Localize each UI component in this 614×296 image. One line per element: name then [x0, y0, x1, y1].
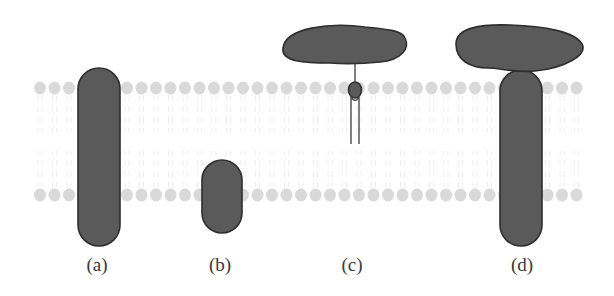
lipid-head — [368, 82, 380, 95]
lipid-head — [310, 189, 322, 202]
lipid-head — [440, 82, 452, 95]
lipid-head — [63, 82, 75, 95]
lipid-head — [281, 82, 293, 95]
diagram-canvas — [0, 0, 614, 296]
panel-label-c: (c) — [341, 254, 362, 276]
lipid-head — [397, 189, 409, 202]
lipid-head — [150, 189, 162, 202]
lipid-head — [121, 82, 133, 95]
lipid-head — [223, 82, 235, 95]
lipid-head — [194, 82, 206, 95]
lipid-head — [455, 189, 467, 202]
protein-b-embedded — [202, 160, 242, 233]
lipid-head — [49, 189, 61, 202]
lipid-head — [165, 189, 177, 202]
lipid-head — [484, 189, 496, 202]
lipid-head — [237, 82, 249, 95]
panel-label-a: (a) — [86, 254, 107, 276]
lipid-head — [295, 82, 307, 95]
lipid-head — [252, 189, 264, 202]
lipid-head — [179, 82, 191, 95]
lipid-head — [208, 82, 220, 95]
lipid-anchor-tails — [351, 95, 359, 144]
lipid-head — [63, 189, 75, 202]
lipid-head — [571, 82, 583, 95]
lipid-head — [324, 189, 336, 202]
lipid-head — [353, 189, 365, 202]
lipid-head — [556, 189, 568, 202]
lipid-head — [426, 189, 438, 202]
lipid-head — [295, 189, 307, 202]
lipid-head — [324, 82, 336, 95]
lipid-head — [542, 189, 554, 202]
lipid-head — [455, 82, 467, 95]
lipid-head — [382, 82, 394, 95]
lipid-head — [382, 189, 394, 202]
lipid-head — [179, 189, 191, 202]
lipid-head — [49, 82, 61, 95]
lipid-head — [556, 82, 568, 95]
lipid-head — [368, 189, 380, 202]
lipid-head — [411, 82, 423, 95]
lipid-head — [34, 82, 46, 95]
integral-protein-shape — [500, 70, 542, 246]
lipid-head — [136, 189, 148, 202]
lipid-head — [440, 189, 452, 202]
panel-label-d: (d) — [511, 254, 533, 276]
lipid-head — [281, 189, 293, 202]
lipid-head — [310, 82, 322, 95]
protein-d-complex — [456, 25, 583, 246]
transmembrane-protein-shape — [78, 68, 120, 246]
lipid-head — [469, 82, 481, 95]
lipid-head — [266, 189, 278, 202]
lipid-head — [484, 82, 496, 95]
lipid-head — [426, 82, 438, 95]
lipid-head — [165, 82, 177, 95]
lipid-head — [266, 82, 278, 95]
panel-label-b: (b) — [209, 254, 231, 276]
peripheral-protein-shape — [456, 25, 583, 72]
protein-a-transmembrane — [78, 68, 120, 246]
lipid-head — [34, 189, 46, 202]
embedded-protein-shape — [202, 160, 242, 233]
lipid-head — [339, 189, 351, 202]
lipid-head — [397, 82, 409, 95]
peripheral-protein-shape — [283, 25, 407, 63]
lipid-head — [571, 189, 583, 202]
lipid-head — [150, 82, 162, 95]
lipid-head — [121, 189, 133, 202]
membrane-protein-diagram: (a) (b) (c) (d) — [0, 0, 614, 296]
lipid-head — [542, 82, 554, 95]
lipid-head — [136, 82, 148, 95]
lipid-head — [469, 189, 481, 202]
lipid-head — [411, 189, 423, 202]
lipid-head — [252, 82, 264, 95]
